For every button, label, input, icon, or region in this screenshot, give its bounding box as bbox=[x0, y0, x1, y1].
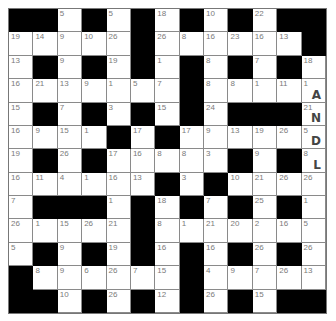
grid-cell[interactable]: 17 bbox=[180, 126, 204, 149]
grid-cell[interactable]: 24 bbox=[204, 103, 228, 126]
grid-cell[interactable]: 16 bbox=[204, 32, 228, 55]
grid-cell[interactable]: 26 bbox=[107, 32, 131, 55]
grid-cell[interactable]: 3 bbox=[204, 149, 228, 172]
grid-cell[interactable]: 13 bbox=[277, 32, 301, 55]
grid-cell[interactable]: 16 bbox=[131, 149, 155, 172]
grid-cell[interactable]: 4 bbox=[204, 266, 228, 289]
grid-cell[interactable]: 15 bbox=[9, 103, 33, 126]
grid-cell[interactable]: 13 bbox=[131, 173, 155, 196]
grid-cell[interactable]: 2 bbox=[253, 219, 277, 242]
grid-cell[interactable]: 5 bbox=[9, 243, 33, 266]
grid-cell[interactable]: 13 bbox=[302, 266, 326, 289]
grid-cell[interactable]: 19 bbox=[253, 126, 277, 149]
grid-cell[interactable]: 8 bbox=[155, 219, 179, 242]
grid-cell[interactable]: 7 bbox=[58, 103, 82, 126]
grid-cell[interactable]: 3 bbox=[180, 173, 204, 196]
grid-cell[interactable]: 16 bbox=[9, 173, 33, 196]
grid-cell[interactable]: 8 bbox=[204, 56, 228, 79]
grid-cell[interactable]: 16 bbox=[107, 173, 131, 196]
grid-cell[interactable]: 5 bbox=[107, 9, 131, 32]
grid-cell[interactable]: 16 bbox=[9, 79, 33, 102]
grid-cell[interactable]: 10 bbox=[228, 173, 252, 196]
grid-cell[interactable]: 14 bbox=[33, 32, 57, 55]
grid-cell[interactable]: 17 bbox=[131, 126, 155, 149]
grid-cell[interactable]: 1 bbox=[107, 196, 131, 219]
grid-cell[interactable]: 1A bbox=[302, 79, 326, 102]
grid-cell[interactable]: 9 bbox=[58, 243, 82, 266]
grid-cell[interactable]: 26 bbox=[277, 126, 301, 149]
grid-cell[interactable]: 7 bbox=[253, 56, 277, 79]
grid-cell[interactable]: 26 bbox=[277, 173, 301, 196]
grid-cell[interactable]: 18 bbox=[155, 196, 179, 219]
grid-cell[interactable]: 13 bbox=[228, 126, 252, 149]
grid-cell[interactable]: 8 bbox=[180, 32, 204, 55]
grid-cell[interactable]: 20 bbox=[228, 219, 252, 242]
grid-cell[interactable]: 8L bbox=[302, 149, 326, 172]
grid-cell[interactable]: 21 bbox=[204, 219, 228, 242]
grid-cell[interactable]: 8 bbox=[204, 79, 228, 102]
grid-cell[interactable]: 9 bbox=[58, 56, 82, 79]
grid-cell[interactable]: 19 bbox=[107, 56, 131, 79]
grid-cell[interactable]: 19 bbox=[9, 149, 33, 172]
grid-cell[interactable]: 26 bbox=[107, 290, 131, 313]
grid-cell[interactable]: 26 bbox=[204, 290, 228, 313]
grid-cell[interactable]: 15 bbox=[155, 266, 179, 289]
grid-cell[interactable]: 10 bbox=[82, 32, 106, 55]
grid-cell[interactable]: 9 bbox=[33, 126, 57, 149]
grid-cell[interactable]: 1 bbox=[253, 79, 277, 102]
grid-cell[interactable]: 21 bbox=[253, 173, 277, 196]
grid-cell[interactable]: 26 bbox=[302, 173, 326, 196]
grid-cell[interactable]: 26 bbox=[277, 266, 301, 289]
grid-cell[interactable]: 21 bbox=[33, 79, 57, 102]
grid-cell[interactable]: 15 bbox=[58, 219, 82, 242]
grid-cell[interactable]: 26 bbox=[9, 219, 33, 242]
grid-cell[interactable]: 16 bbox=[253, 32, 277, 55]
grid-cell[interactable]: 16 bbox=[155, 243, 179, 266]
grid-cell[interactable]: 9 bbox=[58, 32, 82, 55]
grid-cell[interactable]: 7 bbox=[204, 196, 228, 219]
grid-cell[interactable]: 8 bbox=[180, 149, 204, 172]
grid-cell[interactable]: 1 bbox=[302, 196, 326, 219]
grid-cell[interactable]: 9 bbox=[228, 266, 252, 289]
grid-cell[interactable]: 26 bbox=[58, 149, 82, 172]
grid-cell[interactable]: 19 bbox=[9, 32, 33, 55]
grid-cell[interactable]: 8 bbox=[155, 149, 179, 172]
grid-cell[interactable]: 21N bbox=[302, 103, 326, 126]
grid-cell[interactable]: 8 bbox=[33, 266, 57, 289]
grid-cell[interactable]: 5 bbox=[302, 219, 326, 242]
grid-cell[interactable]: 13 bbox=[58, 79, 82, 102]
grid-cell[interactable]: 1 bbox=[33, 219, 57, 242]
grid-cell[interactable]: 26 bbox=[107, 266, 131, 289]
grid-cell[interactable]: 22 bbox=[253, 9, 277, 32]
grid-cell[interactable]: 19 bbox=[107, 243, 131, 266]
grid-cell[interactable]: 1 bbox=[107, 79, 131, 102]
grid-cell[interactable]: 12 bbox=[155, 290, 179, 313]
grid-cell[interactable]: 13 bbox=[9, 56, 33, 79]
grid-cell[interactable]: 21 bbox=[107, 219, 131, 242]
grid-cell[interactable]: 9 bbox=[58, 266, 82, 289]
grid-cell[interactable]: 4 bbox=[58, 173, 82, 196]
grid-cell[interactable]: 9 bbox=[253, 149, 277, 172]
grid-cell[interactable]: 26 bbox=[302, 243, 326, 266]
grid-cell[interactable]: 1 bbox=[82, 126, 106, 149]
grid-cell[interactable]: 15 bbox=[58, 126, 82, 149]
grid-cell[interactable]: 11 bbox=[33, 173, 57, 196]
grid-cell[interactable]: 15 bbox=[155, 103, 179, 126]
grid-cell[interactable]: 9 bbox=[82, 79, 106, 102]
grid-cell[interactable]: 1 bbox=[82, 173, 106, 196]
grid-cell[interactable]: 26 bbox=[82, 219, 106, 242]
grid-cell[interactable]: 10 bbox=[58, 290, 82, 313]
grid-cell[interactable]: 16 bbox=[204, 243, 228, 266]
grid-cell[interactable]: 8 bbox=[228, 79, 252, 102]
grid-cell[interactable]: 15 bbox=[253, 290, 277, 313]
grid-cell[interactable]: 25 bbox=[253, 196, 277, 219]
grid-cell[interactable]: 1 bbox=[155, 56, 179, 79]
grid-cell[interactable]: 16 bbox=[277, 219, 301, 242]
grid-cell[interactable]: 7 bbox=[155, 79, 179, 102]
grid-cell[interactable]: 7 bbox=[9, 196, 33, 219]
grid-cell[interactable]: 5 bbox=[131, 79, 155, 102]
grid-cell[interactable]: 23 bbox=[228, 32, 252, 55]
grid-cell[interactable]: 17 bbox=[107, 149, 131, 172]
grid-cell[interactable]: 18 bbox=[155, 9, 179, 32]
grid-cell[interactable]: 26 bbox=[155, 32, 179, 55]
